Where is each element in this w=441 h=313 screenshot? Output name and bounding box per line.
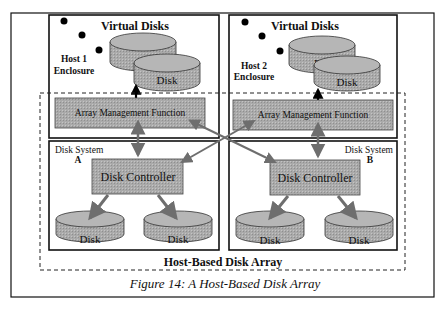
disk-system-label: Disk System — [55, 145, 104, 155]
virtual-disk-front: Disk — [314, 56, 380, 91]
dot-icon — [61, 18, 68, 25]
disk-label: Disk — [349, 234, 370, 246]
array-label: Host-Based Disk Array — [164, 255, 283, 269]
host-enclosure-label: Enclosure — [234, 72, 274, 82]
disk-controller-label: Disk Controller — [278, 171, 353, 185]
host-2-enclosure: Virtual Disks Host 2 Enclosure Di Disk A… — [229, 15, 397, 138]
figure-caption: Figure 14: A Host-Based Disk Array — [129, 276, 321, 291]
disk-system-letter: A — [75, 155, 82, 165]
dot-icon — [277, 48, 284, 55]
host-based-disk-array-diagram: Virtual Disks Host 1 Enclosure Di Disk A… — [0, 0, 441, 313]
disk-label: Disk — [260, 234, 281, 246]
host-enclosure-label: Enclosure — [54, 66, 94, 76]
virtual-disk-label: Disk — [337, 76, 358, 88]
virtual-disk-front: Disk — [134, 54, 200, 91]
host-enclosure-label: Host 1 — [61, 54, 87, 64]
virtual-disks-title: Virtual Disks — [271, 19, 339, 33]
disk-system-label: Disk System — [345, 145, 394, 155]
dot-icon — [96, 47, 103, 54]
disk-label: Disk — [80, 233, 101, 245]
virtual-disks-title: Virtual Disks — [101, 19, 169, 33]
disk-controller-label: Disk Controller — [101, 170, 176, 184]
physical-disk: Disk — [325, 211, 393, 246]
dot-icon — [259, 33, 266, 40]
dot-icon — [242, 19, 249, 26]
amf-label: Array Management Function — [258, 110, 369, 120]
dot-icon — [79, 32, 86, 39]
amf-label: Array Management Function — [75, 108, 186, 118]
physical-disk: Disk — [144, 211, 212, 245]
host-1-enclosure: Virtual Disks Host 1 Enclosure Di Disk A… — [49, 15, 219, 138]
disk-system-letter: B — [367, 155, 374, 165]
disk-label: Disk — [168, 233, 189, 245]
disk-system-a: Disk System A Disk Controller Disk Disk — [49, 141, 219, 250]
host-enclosure-label: Host 2 — [241, 61, 267, 71]
virtual-disk-label: Disk — [157, 74, 178, 86]
disk-system-b: Disk System B Disk Controller Disk Disk — [229, 141, 397, 250]
